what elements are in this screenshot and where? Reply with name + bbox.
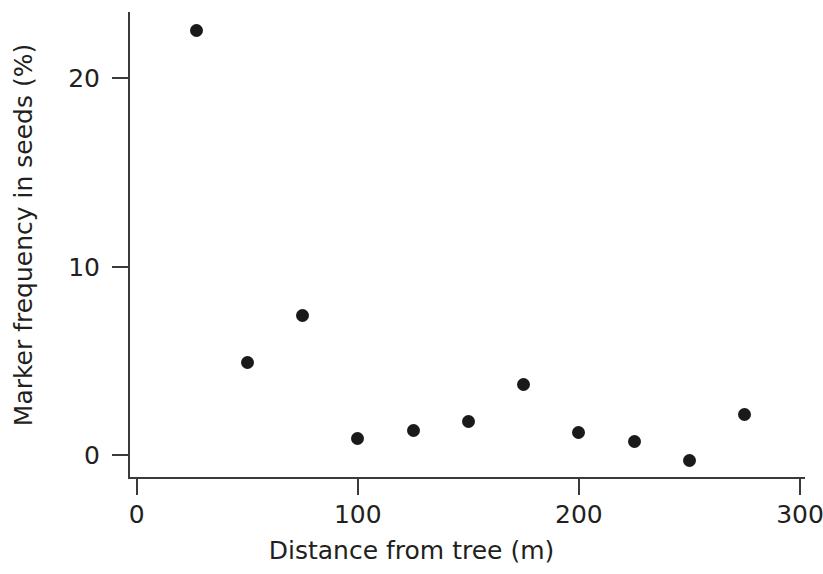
y-axis-tick: [112, 266, 128, 268]
x-axis-tick: [578, 479, 580, 495]
data-point: [407, 424, 420, 437]
scatter-plot-figure: 01020 0100200300 Marker frequency in see…: [0, 0, 823, 574]
data-point: [628, 435, 641, 448]
x-axis-tick-label: 300: [776, 500, 823, 529]
x-axis-tick: [357, 479, 359, 495]
x-axis-tick-label: 0: [129, 500, 145, 529]
data-point: [351, 432, 364, 445]
x-axis-tick-label: 100: [334, 500, 382, 529]
data-point: [241, 356, 254, 369]
y-axis-tick: [112, 454, 128, 456]
y-axis-tick-label: 20: [68, 64, 100, 93]
data-point: [462, 415, 475, 428]
plot-area: 01020 0100200300: [0, 0, 823, 574]
data-point: [517, 378, 530, 391]
x-axis-title: Distance from tree (m): [0, 536, 823, 565]
data-point: [683, 454, 696, 467]
x-axis-line: [128, 477, 805, 479]
x-axis-tick: [136, 479, 138, 495]
y-axis-tick: [112, 77, 128, 79]
data-point: [190, 24, 203, 37]
y-axis-tick-label: 10: [68, 252, 100, 281]
y-axis-title: Marker frequency in seeds (%): [8, 0, 40, 470]
data-point: [296, 309, 309, 322]
y-axis-line: [128, 12, 130, 479]
x-axis-tick-label: 200: [555, 500, 603, 529]
x-axis-tick: [799, 479, 801, 495]
data-point: [572, 426, 585, 439]
y-axis-tick-label: 0: [84, 441, 100, 470]
data-point: [738, 408, 751, 421]
